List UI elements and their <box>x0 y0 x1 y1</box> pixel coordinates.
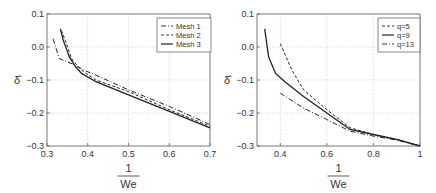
legend: q=5q=9q=13 <box>378 18 420 52</box>
legend-label: q=13 <box>397 40 414 49</box>
x-tick-label: 0.8 <box>367 149 380 159</box>
x-tick-label: 0.7 <box>204 149 217 159</box>
y-tick-label: −0.1 <box>26 75 44 85</box>
y-tick-label: −0.2 <box>26 108 44 118</box>
y-tick-label: −0.1 <box>236 75 254 85</box>
legend: Mesh 1Mesh 2Mesh 3 <box>157 18 211 52</box>
series-line <box>280 93 420 146</box>
y-axis-label: δ̂ <box>224 74 232 86</box>
x-axis-label-denominator: We <box>330 178 346 190</box>
x-tick-label: 0.6 <box>163 149 176 159</box>
x-tick-label: 0.6 <box>321 149 334 159</box>
y-tick-label: 0.0 <box>31 42 44 52</box>
chart-left-mesh: 0.30.40.50.60.70.10.0−0.1−0.2−0.3Mesh 1M… <box>14 9 216 190</box>
x-tick-label: 0.4 <box>81 149 94 159</box>
legend-label: Mesh 1 <box>176 22 201 31</box>
y-axis-label: δ̂ <box>14 74 22 86</box>
legend-label: Mesh 3 <box>176 40 201 49</box>
x-axis-label-numerator: 1 <box>335 162 341 174</box>
legend-label: Mesh 2 <box>176 31 201 40</box>
x-tick-label: 0.5 <box>122 149 135 159</box>
y-tick-label: −0.3 <box>26 141 44 151</box>
y-tick-label: 0.0 <box>241 42 254 52</box>
y-tick-label: −0.2 <box>236 108 254 118</box>
legend-label: q=5 <box>397 22 410 31</box>
y-tick-label: 0.1 <box>241 9 254 19</box>
y-tick-label: 0.1 <box>31 9 44 19</box>
chart-right-q: 0.40.60.810.10.0−0.1−0.2−0.3q=5q=9q=13δ̂… <box>224 9 423 190</box>
figure: 0.30.40.50.60.70.10.0−0.1−0.2−0.3Mesh 1M… <box>0 0 436 193</box>
x-axis-label-numerator: 1 <box>125 162 131 174</box>
x-axis-label-denominator: We <box>120 178 136 190</box>
x-tick-label: 1 <box>417 149 422 159</box>
x-tick-label: 0.4 <box>274 149 287 159</box>
y-tick-label: −0.3 <box>236 141 254 151</box>
legend-label: q=9 <box>397 31 410 40</box>
